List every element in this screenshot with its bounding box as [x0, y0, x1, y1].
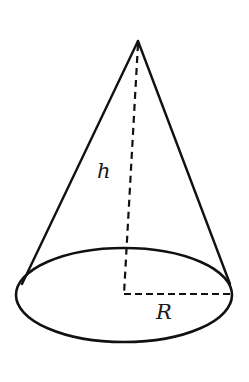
cone-diagram: h R	[0, 0, 249, 382]
radius-label: R	[155, 300, 172, 324]
height-label: h	[97, 159, 111, 183]
height-dashed-line	[124, 44, 138, 294]
cone-right-side	[138, 41, 230, 284]
